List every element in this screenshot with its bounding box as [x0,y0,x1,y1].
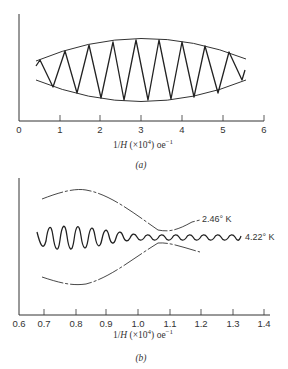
tick-label: 0.8 [69,318,82,329]
label-4-22K: 4.22° K [245,232,275,242]
tick-label: 0.6 [12,318,25,329]
tick-label: 2 [97,124,102,135]
tick-label: 6 [261,124,266,135]
panel-b-tick-labels: 0.6 0.7 0.8 0.9 1.0 1.1 1.2 1.3 1.4 [12,318,270,329]
tick-label: 0.7 [37,318,50,329]
figure: 0 1 2 3 4 5 6 1/H (×104) oe−1 (a) [0,0,288,369]
panel-b-x-axis-label: 1/H (×104) oe−1 [113,328,174,341]
tick-label: 1.4 [257,318,270,329]
tick-label: 1.2 [194,318,207,329]
panel-b-upper-envelope-2-46K [42,189,200,230]
tick-label: 3 [138,124,143,135]
panel-a-caption: (a) [135,160,146,171]
panel-b: 0.6 0.7 0.8 0.9 1.0 1.1 1.2 1.3 1.4 1/H … [12,178,274,364]
panel-a-ticks [60,115,264,121]
label-2-46K: 2.46° K [202,214,232,224]
tick-label: 1.3 [226,318,239,329]
tick-label: 0 [16,124,21,135]
panel-b-oscillation-4-22K [37,226,241,249]
tick-label: 1.0 [131,318,144,329]
panel-a-tick-labels: 0 1 2 3 4 5 6 [16,124,266,135]
tick-label: 0.9 [99,318,112,329]
panel-a-x-axis-label: 1/H (×104) oe−1 [113,138,174,151]
tick-label: 5 [220,124,225,135]
tick-label: 1 [57,124,62,135]
panel-a: 0 1 2 3 4 5 6 1/H (×104) oe−1 (a) [16,14,266,171]
tick-label: 4 [179,124,184,135]
panel-b-ticks [44,309,264,315]
panel-a-lower-envelope [36,80,246,102]
panel-b-lower-envelope-2-46K [42,243,200,285]
panel-b-caption: (b) [135,353,146,364]
